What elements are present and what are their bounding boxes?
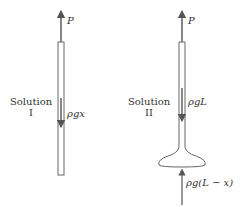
solution-1-title: Solution I bbox=[8, 96, 54, 118]
solution-2-title-line1: Solution bbox=[126, 96, 172, 107]
solution-2-top-force-label: P bbox=[188, 15, 195, 26]
solution-2-internal-force-label: ρgL bbox=[188, 96, 207, 107]
solution-1-title-line1: Solution bbox=[8, 96, 54, 107]
solution-2-bottom-force-label: ρg(L − x) bbox=[186, 177, 233, 188]
solution-1-top-force-label: P bbox=[67, 15, 74, 26]
solution-2-title-line2: II bbox=[126, 107, 172, 118]
solution-1-title-line2: I bbox=[8, 107, 54, 118]
solution-1-internal-force-label: ρgx bbox=[67, 108, 85, 119]
solution-1-figure bbox=[58, 14, 64, 175]
solution-2-title: Solution II bbox=[126, 96, 172, 118]
